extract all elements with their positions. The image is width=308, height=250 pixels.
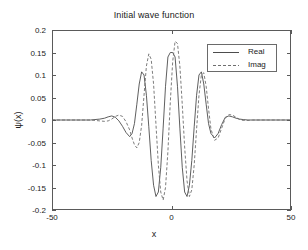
x-tick-mark [172, 206, 173, 210]
y-tick-label: 0 [0, 116, 46, 125]
page-title: Initial wave function [0, 10, 308, 20]
y-tick-mark-right [287, 188, 291, 189]
y-tick-mark [52, 143, 56, 144]
y-tick-label: -0.15 [0, 183, 46, 192]
y-tick-mark-right [287, 53, 291, 54]
legend-label-imag: Imag [248, 60, 266, 69]
figure-canvas: Initial wave function -0.2-0.15-0.1-0.05… [0, 0, 308, 250]
y-tick-mark [52, 210, 56, 211]
y-tick-mark-right [287, 98, 291, 99]
y-tick-label: 0.1 [0, 71, 46, 80]
x-tick-mark [52, 206, 53, 210]
y-tick-mark [52, 120, 56, 121]
y-tick-mark-right [287, 75, 291, 76]
y-tick-mark-right [287, 143, 291, 144]
y-axis-label: ψ(x) [13, 100, 23, 140]
y-tick-label: -0.1 [0, 161, 46, 170]
x-tick-label: -50 [46, 213, 58, 222]
y-tick-label: -0.2 [0, 206, 46, 215]
legend-item-imag[interactable]: Imag [208, 59, 278, 72]
y-tick-mark [52, 53, 56, 54]
y-tick-mark [52, 98, 56, 99]
legend-swatch-solid [213, 52, 239, 53]
series-line-real [52, 53, 291, 197]
y-tick-label: 0.2 [0, 26, 46, 35]
y-tick-mark [52, 75, 56, 76]
x-tick-mark-top [291, 30, 292, 34]
x-tick-mark [291, 206, 292, 210]
x-tick-mark-top [172, 30, 173, 34]
x-axis-label: x [0, 229, 308, 239]
y-tick-mark [52, 165, 56, 166]
y-tick-label: 0.05 [0, 93, 46, 102]
x-tick-mark-top [52, 30, 53, 34]
y-tick-mark-right [287, 165, 291, 166]
x-tick-label: 50 [287, 213, 296, 222]
y-tick-mark-right [287, 210, 291, 211]
legend-label-real: Real [248, 47, 264, 56]
legend-item-real[interactable]: Real [208, 46, 278, 59]
legend-swatch-dashed [213, 65, 239, 66]
y-tick-label: -0.05 [0, 138, 46, 147]
y-tick-mark-right [287, 120, 291, 121]
y-tick-mark [52, 188, 56, 189]
x-tick-label: 0 [169, 213, 173, 222]
y-tick-label: 0.15 [0, 48, 46, 57]
legend[interactable]: Real Imag [207, 44, 277, 72]
